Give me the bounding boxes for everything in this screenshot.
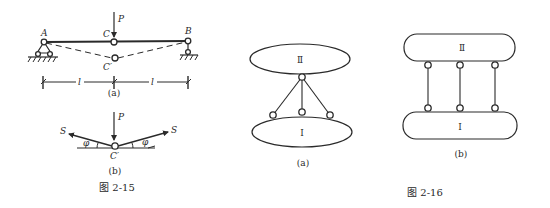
hinge-bottom-left-b — [425, 105, 431, 111]
force-arrow-s-left — [69, 134, 112, 146]
point-label-c-prime: C′ — [103, 62, 112, 72]
hinge-c — [111, 39, 117, 45]
figure-2-16-b: Ⅱ Ⅰ (b) — [403, 34, 517, 159]
figure-2-15-a: P A C C′ — [28, 12, 198, 98]
support-b-icon — [180, 44, 198, 60]
body-ii-label: Ⅱ — [297, 55, 303, 65]
point-label-c-prime-b: C′ — [110, 151, 119, 161]
figure-2-16-a: Ⅱ Ⅰ (a) — [250, 44, 352, 168]
point-label-b: B — [184, 26, 192, 36]
hinge-bottom-left — [270, 112, 276, 118]
figure-caption-2-15: 图 2-15 — [99, 182, 135, 193]
hinge-b — [185, 38, 191, 44]
hinge-bottom-middle — [299, 109, 305, 115]
hinge-bottom-right-b — [492, 105, 498, 111]
point-label-a: A — [40, 28, 48, 38]
subfigure-label-a-2-16: (a) — [297, 158, 309, 168]
hinge-c-prime — [112, 55, 118, 61]
hinge-top-right-b — [492, 62, 498, 68]
angle-label-left: φ — [83, 138, 90, 148]
hinge-top-left-b — [425, 62, 431, 68]
figure-caption-2-16: 图 2-16 — [407, 187, 443, 198]
hinge-top-middle-b — [457, 62, 463, 68]
body-ii-label-b: Ⅱ — [459, 43, 465, 53]
hinge-a — [41, 39, 47, 45]
body-i-label-b: Ⅰ — [458, 122, 462, 132]
load-label-p-b: P — [117, 112, 125, 122]
angle-arc-left — [97, 143, 98, 148]
hinge-bottom-middle-b — [457, 105, 463, 111]
subfigure-label-b-2-16: (b) — [455, 149, 468, 159]
body-i-label: Ⅰ — [300, 128, 304, 138]
hinge-top — [299, 74, 305, 80]
load-label-p: P — [117, 14, 125, 24]
figure-2-15-b: S S φ φ P C′ (b) — [60, 112, 177, 176]
span-label-left: l — [78, 77, 81, 87]
deflected-line-right — [118, 42, 186, 58]
subfigure-label-b: (b) — [109, 166, 122, 176]
hinge-bottom-right — [327, 112, 333, 118]
angle-label-right: φ — [142, 137, 149, 147]
angle-arc-right — [132, 143, 133, 148]
span-label-right: l — [151, 77, 154, 87]
force-label-s-left: S — [60, 126, 66, 136]
link-left — [273, 77, 302, 115]
deflected-line-left — [46, 43, 112, 58]
hinge-c-prime-b — [112, 143, 118, 149]
point-label-c: C — [103, 29, 110, 39]
link-right — [302, 77, 330, 115]
subfigure-label-a: (a) — [108, 88, 120, 98]
force-label-s-right: S — [171, 125, 177, 135]
diagram-canvas: P A C C′ — [0, 0, 550, 208]
